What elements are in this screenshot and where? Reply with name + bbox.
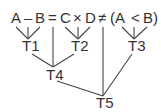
node-t1: T1 xyxy=(22,37,40,54)
token-not-equal: ≠ xyxy=(98,9,106,26)
expression-tree-diagram: A – B = C × D ≠ (A < B) T1 T2 T3 T4 T5 xyxy=(0,0,161,112)
token-equals: = xyxy=(48,9,57,26)
token-c: C xyxy=(60,9,71,26)
token-b-close: B) xyxy=(143,9,158,26)
node-t3: T3 xyxy=(128,37,146,54)
token-less-than: < xyxy=(131,9,140,26)
node-t5: T5 xyxy=(96,94,114,111)
node-t4: T4 xyxy=(46,66,64,83)
node-t2: T2 xyxy=(71,37,89,54)
token-b: B xyxy=(35,9,45,26)
token-a: A xyxy=(11,9,21,26)
token-minus: – xyxy=(24,9,33,26)
token-open-a: (A xyxy=(110,9,125,26)
token-d: D xyxy=(85,9,96,26)
token-times: × xyxy=(73,9,82,26)
edge-t3-t5 xyxy=(103,54,132,96)
